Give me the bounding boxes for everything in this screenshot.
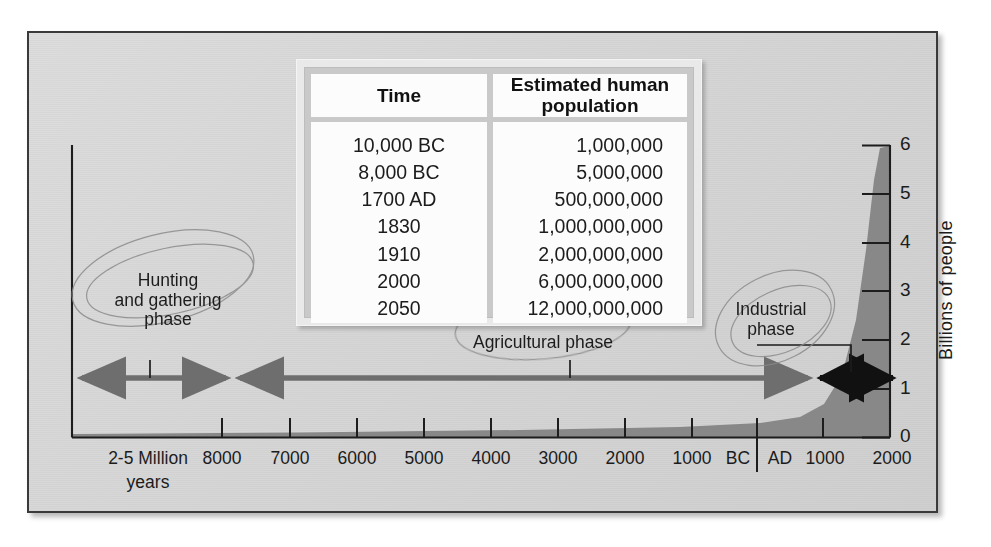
phase-label-industrial: Industrial phase	[712, 300, 830, 339]
phase-line-1: Hunting	[78, 271, 258, 291]
table-header-row: Time Estimated human population	[311, 74, 687, 117]
table-header-time-text: Time	[377, 85, 421, 106]
table-cell-time: 1830	[311, 213, 487, 240]
x-tick-text: 2-5 Million	[108, 448, 188, 468]
x-tick-sublabel-years: years	[73, 472, 223, 493]
y-tick-label-6: 6	[900, 133, 911, 155]
table-cell-population: 1,000,000,000	[493, 213, 663, 240]
table-cell-population: 500,000,000	[493, 186, 663, 213]
phase-line-1: Agricultural phase	[443, 333, 643, 353]
phase-line-2: phase	[712, 320, 830, 340]
inset-table-body: Time Estimated human population 10,000 B…	[311, 74, 687, 311]
table-column-population: 1,000,000 5,000,000 500,000,000 1,000,00…	[493, 122, 687, 323]
x-tick-label-bc: BC	[718, 448, 758, 469]
phase-line-3: phase	[78, 310, 258, 330]
x-tick-label-1000-bc: 1000	[657, 448, 727, 469]
table-cell-population: 6,000,000,000	[493, 268, 663, 295]
figure-root: 2-5 Million years 8000 7000 6000 5000 40…	[0, 0, 991, 547]
x-tick-label-2000-ad: 2000	[857, 448, 927, 469]
y-tick-label-0: 0	[900, 425, 911, 447]
table-data-rows: 10,000 BC 8,000 BC 1700 AD 1830 1910 200…	[311, 122, 687, 323]
x-tick-label-2000-bc: 2000	[590, 448, 660, 469]
table-header-population: Estimated human population	[493, 74, 687, 117]
x-tick-label-8000: 8000	[187, 448, 257, 469]
x-tick-label-5000: 5000	[389, 448, 459, 469]
y-tick-label-4: 4	[900, 231, 911, 253]
y-tick-label-2: 2	[900, 328, 911, 350]
table-cell-population: 12,000,000,000	[493, 295, 663, 322]
phase-label-agricultural: Agricultural phase	[443, 333, 643, 353]
table-column-population-values: 1,000,000 5,000,000 500,000,000 1,000,00…	[493, 132, 687, 323]
table-cell-time: 1910	[311, 241, 487, 268]
phase-label-hunting-gathering: Hunting and gathering phase	[78, 271, 258, 330]
inset-table-frame: Time Estimated human population 10,000 B…	[304, 67, 694, 318]
x-tick-label-4000: 4000	[456, 448, 526, 469]
phase-line-2: and gathering	[78, 291, 258, 311]
table-cell-time: 2000	[311, 268, 487, 295]
table-cell-population: 1,000,000	[493, 132, 663, 159]
phase-line-1: Industrial	[712, 300, 830, 320]
x-tick-label-6000: 6000	[322, 448, 392, 469]
table-column-time: 10,000 BC 8,000 BC 1700 AD 1830 1910 200…	[311, 122, 487, 323]
table-header-population-line1: Estimated human	[511, 74, 669, 95]
table-cell-population: 5,000,000	[493, 159, 663, 186]
x-tick-label-7000: 7000	[255, 448, 325, 469]
y-tick-label-5: 5	[900, 182, 911, 204]
table-cell-time: 2050	[311, 295, 487, 322]
x-tick-label-3000: 3000	[523, 448, 593, 469]
table-cell-time: 10,000 BC	[311, 132, 487, 159]
y-axis-title: Billions of people	[936, 220, 957, 360]
x-tick-label-1000-ad: 1000	[790, 448, 860, 469]
table-header-time: Time	[311, 74, 487, 117]
y-tick-label-3: 3	[900, 279, 911, 301]
industrial-leader-line	[757, 345, 851, 372]
table-cell-time: 8,000 BC	[311, 159, 487, 186]
table-header-population-line2: population	[511, 95, 669, 116]
table-cell-population: 2,000,000,000	[493, 241, 663, 268]
table-cell-time: 1700 AD	[311, 186, 487, 213]
y-tick-label-1: 1	[900, 377, 911, 399]
table-column-time-values: 10,000 BC 8,000 BC 1700 AD 1830 1910 200…	[311, 132, 487, 323]
inset-table: Time Estimated human population 10,000 B…	[296, 59, 702, 326]
